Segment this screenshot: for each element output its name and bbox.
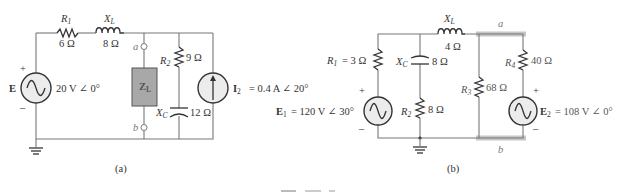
r2-value: 9 Ω	[186, 52, 202, 63]
e1-label: E1	[276, 106, 287, 119]
e-value: 20 V ∠ 0°	[56, 83, 100, 94]
ground-icon	[29, 139, 43, 154]
ac-voltage-source-icon	[21, 73, 51, 103]
r1-label: R1	[60, 13, 71, 26]
r2-label: R2	[400, 106, 411, 119]
xl-label: XL	[443, 13, 455, 26]
r2-label: R2	[159, 55, 170, 68]
ac-voltage-source-e1-icon	[364, 97, 392, 125]
clipped-figure-caption	[281, 190, 335, 192]
terminal-b-label: b	[498, 144, 503, 155]
inductor-xl-icon	[96, 28, 124, 33]
resistor-r4-icon	[519, 50, 527, 70]
r1-value: 6 Ω	[59, 38, 75, 49]
resistor-r1-icon	[57, 29, 78, 37]
r1-label: R1	[326, 55, 337, 68]
e2-plus: +	[533, 85, 539, 96]
e1-minus: –	[358, 123, 365, 134]
r1-value: = 3 Ω	[342, 55, 366, 66]
xc-value: 12 Ω	[190, 107, 211, 118]
r3-label: R3	[460, 84, 471, 97]
r3-value: 68 Ω	[486, 82, 507, 93]
current-source-i2-icon	[198, 73, 228, 103]
resistor-r3-icon	[475, 77, 483, 97]
r4-value: 40 Ω	[531, 55, 552, 66]
e1-value: = 120 V ∠ 30°	[291, 106, 354, 117]
e-minus: –	[19, 102, 26, 113]
wire	[378, 34, 438, 49]
r4-label: R4	[504, 57, 515, 70]
capacitor-xc-icon	[411, 56, 429, 64]
xl-label: XL	[103, 13, 115, 26]
e-label: E	[9, 83, 16, 94]
ground-icon	[413, 136, 427, 153]
xc-label: XC	[395, 56, 408, 69]
capacitor-xc-icon	[170, 108, 188, 117]
resistor-r1-icon	[374, 49, 382, 70]
i2-value: = 0.4 A ∠ 20°	[249, 83, 308, 94]
i2-label: I2	[233, 83, 241, 96]
resistor-r2-icon	[416, 98, 424, 118]
terminal-b-icon	[141, 125, 147, 131]
e-plus: +	[20, 63, 26, 74]
ac-voltage-source-e2-icon	[509, 97, 537, 125]
panel-b-label: (b)	[447, 163, 460, 175]
e1-plus: +	[359, 85, 365, 96]
xl-value: 4 Ω	[445, 41, 461, 52]
panel-a-label: (a)	[115, 163, 127, 175]
circuit-b: R1 = 3 Ω + – E1 = 120 V ∠ 30° XC 8 Ω R2 …	[276, 13, 613, 175]
terminal-a-label: a	[133, 41, 138, 52]
resistor-r2-icon	[175, 47, 183, 67]
terminal-a-label: a	[498, 18, 503, 29]
circuit-figure: R1 6 Ω XL 8 Ω + – E 20 V ∠ 0° a b ZL R2 …	[0, 0, 621, 192]
xc-label: XC	[155, 107, 168, 120]
terminal-b-label: b	[133, 122, 138, 133]
e2-value: = 108 V ∠ 0°	[555, 106, 613, 117]
r2-value: 8 Ω	[428, 104, 444, 115]
e2-minus: –	[532, 123, 539, 134]
e2-label: E2	[540, 106, 551, 119]
terminal-a-icon	[141, 44, 147, 50]
xl-value: 8 Ω	[103, 38, 119, 49]
xc-value: 8 Ω	[432, 56, 448, 67]
inductor-xl-icon	[438, 29, 465, 34]
circuit-a: R1 6 Ω XL 8 Ω + – E 20 V ∠ 0° a b ZL R2 …	[9, 13, 308, 175]
